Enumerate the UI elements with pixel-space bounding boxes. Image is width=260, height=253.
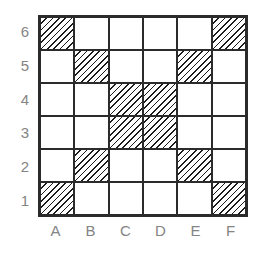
column-label-D: D (143, 219, 178, 241)
cell-B3[interactable] (74, 116, 108, 149)
column-label-B: B (73, 219, 108, 241)
cell-D1[interactable] (143, 182, 177, 215)
row-label-4: 4 (8, 82, 32, 116)
cell-A2[interactable] (40, 149, 74, 182)
cell-B4[interactable] (74, 83, 108, 116)
row-label-5: 5 (8, 49, 32, 83)
cell-F3[interactable] (212, 116, 246, 149)
cell-D5[interactable] (143, 50, 177, 83)
column-label-E: E (178, 219, 213, 241)
cell-D2[interactable] (143, 149, 177, 182)
cell-C1[interactable] (109, 182, 143, 215)
cell-C5[interactable] (109, 50, 143, 83)
cell-E2[interactable] (177, 149, 211, 182)
cell-C3[interactable] (109, 116, 143, 149)
column-label-C: C (108, 219, 143, 241)
row-label-3: 3 (8, 116, 32, 150)
cell-B5[interactable] (74, 50, 108, 83)
cell-E4[interactable] (177, 83, 211, 116)
row-labels: 654321 (8, 15, 32, 217)
cell-A3[interactable] (40, 116, 74, 149)
cell-D3[interactable] (143, 116, 177, 149)
cell-E1[interactable] (177, 182, 211, 215)
cell-A5[interactable] (40, 50, 74, 83)
board-figure: 654321 ABCDEF (0, 0, 260, 253)
cell-C4[interactable] (109, 83, 143, 116)
row-label-6: 6 (8, 15, 32, 49)
cell-A6[interactable] (40, 17, 74, 50)
cell-D6[interactable] (143, 17, 177, 50)
cell-B2[interactable] (74, 149, 108, 182)
grid-board (38, 15, 248, 217)
cell-F1[interactable] (212, 182, 246, 215)
cell-F4[interactable] (212, 83, 246, 116)
cell-B6[interactable] (74, 17, 108, 50)
cell-F6[interactable] (212, 17, 246, 50)
cell-E6[interactable] (177, 17, 211, 50)
row-label-1: 1 (8, 183, 32, 217)
cell-A4[interactable] (40, 83, 74, 116)
cell-F2[interactable] (212, 149, 246, 182)
row-label-2: 2 (8, 150, 32, 184)
cell-A1[interactable] (40, 182, 74, 215)
cell-F5[interactable] (212, 50, 246, 83)
cell-C2[interactable] (109, 149, 143, 182)
cell-B1[interactable] (74, 182, 108, 215)
column-label-A: A (38, 219, 73, 241)
cell-D4[interactable] (143, 83, 177, 116)
column-label-F: F (213, 219, 248, 241)
cell-E3[interactable] (177, 116, 211, 149)
cell-E5[interactable] (177, 50, 211, 83)
column-labels: ABCDEF (38, 219, 248, 241)
cell-C6[interactable] (109, 17, 143, 50)
